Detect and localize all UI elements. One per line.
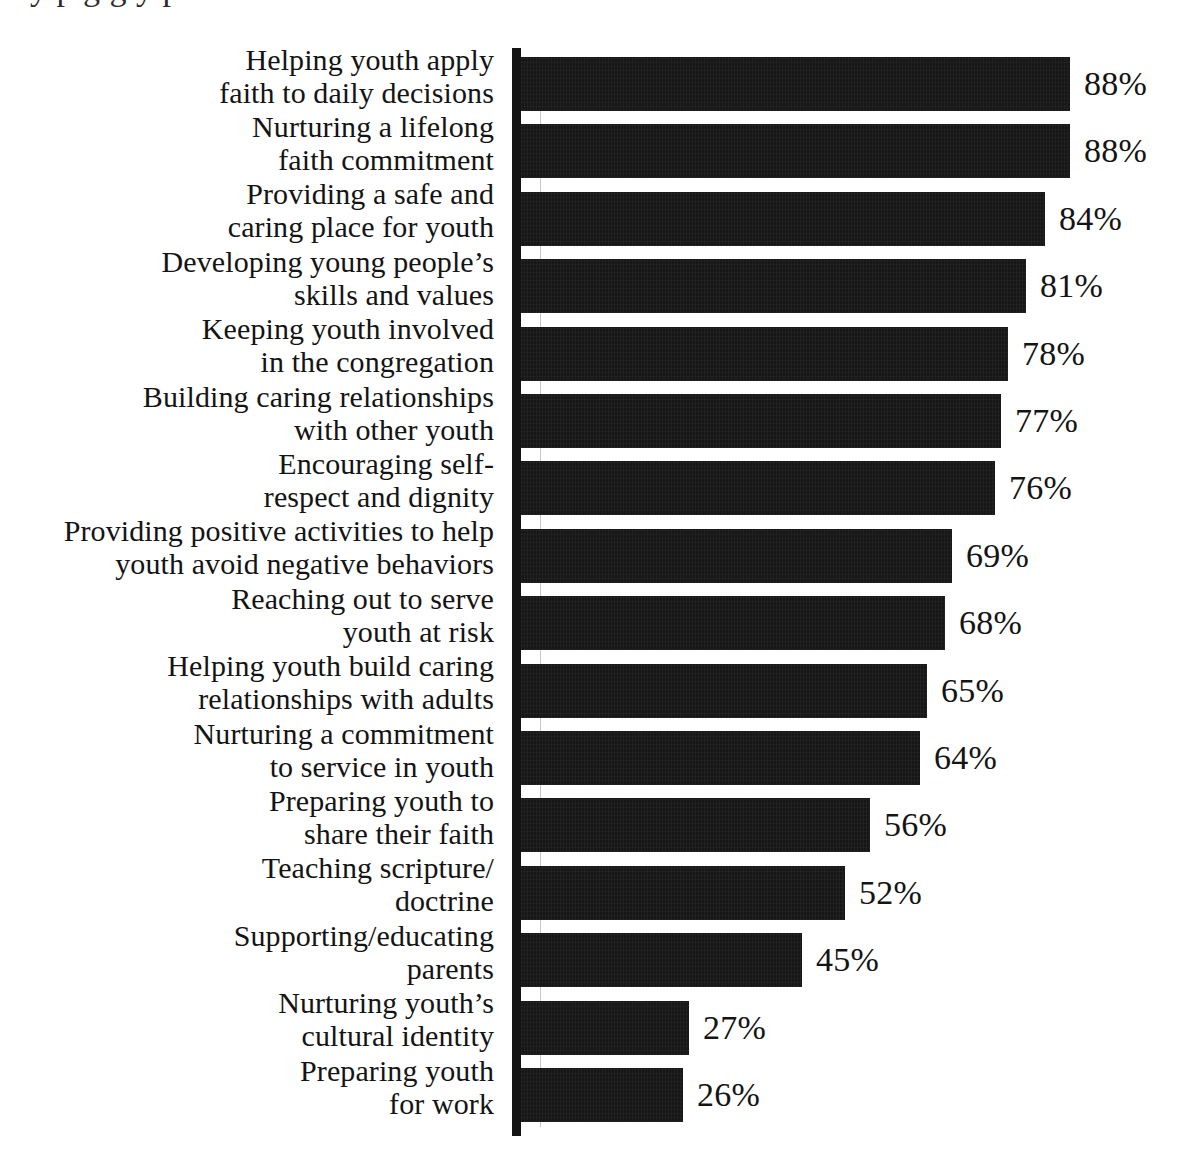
- bar-value-label: 45%: [816, 943, 879, 977]
- category-label-line: Encouraging self-: [0, 447, 494, 480]
- bar-value-label: 76%: [1009, 471, 1072, 505]
- category-label-line: youth avoid negative behaviors: [0, 547, 494, 580]
- category-label-line: Developing young people’s: [0, 245, 494, 278]
- category-label-line: for work: [0, 1087, 494, 1120]
- bar: [521, 798, 870, 852]
- category-label: Providing positive activities to helpyou…: [0, 514, 506, 580]
- category-label-line: skills and values: [0, 278, 494, 311]
- bar: [521, 1068, 683, 1122]
- bar: [521, 327, 1008, 381]
- bar: [521, 394, 1001, 448]
- category-label-line: in the congregation: [0, 345, 494, 378]
- category-label: Preparing youth toshare their faith: [0, 784, 506, 850]
- category-label-line: Nurturing a lifelong: [0, 110, 494, 143]
- bar-value-label: 84%: [1059, 202, 1122, 236]
- category-label-line: Preparing youth: [0, 1054, 494, 1087]
- bar: [521, 866, 845, 920]
- y-axis-line: [512, 48, 521, 1136]
- category-label-line: Providing positive activities to help: [0, 514, 494, 547]
- category-label-line: faith commitment: [0, 143, 494, 176]
- bar-value-label: 88%: [1084, 134, 1147, 168]
- bar-value-label: 81%: [1040, 269, 1103, 303]
- bar-value-label: 77%: [1015, 404, 1078, 438]
- category-label: Encouraging self-respect and dignity: [0, 447, 506, 513]
- bar-value-label: 52%: [859, 876, 922, 910]
- horizontal-bar-chart: Helping youth applyfaith to daily decisi…: [0, 0, 1182, 1165]
- category-label-line: Keeping youth involved: [0, 312, 494, 345]
- bar-value-label: 88%: [1084, 67, 1147, 101]
- category-label: Supporting/educatingparents: [0, 919, 506, 985]
- bar: [521, 596, 945, 650]
- category-label: Nurturing a lifelongfaith commitment: [0, 110, 506, 176]
- bar: [521, 461, 995, 515]
- bar: [521, 192, 1045, 246]
- category-label-line: caring place for youth: [0, 210, 494, 243]
- bar-value-label: 26%: [697, 1078, 760, 1112]
- category-label-line: Nurturing youth’s: [0, 986, 494, 1019]
- category-label-line: faith to daily decisions: [0, 76, 494, 109]
- category-label: Helping youth build caringrelationships …: [0, 649, 506, 715]
- bar: [521, 933, 802, 987]
- category-label-line: to service in youth: [0, 750, 494, 783]
- category-label: Developing young people’sskills and valu…: [0, 245, 506, 311]
- plot-area: 88%88%84%81%78%77%76%69%68%65%64%56%52%4…: [512, 48, 1172, 1138]
- category-label-line: Helping youth build caring: [0, 649, 494, 682]
- category-label-line: share their faith: [0, 817, 494, 850]
- category-label-line: parents: [0, 952, 494, 985]
- category-label: Helping youth applyfaith to daily decisi…: [0, 43, 506, 109]
- bar: [521, 124, 1070, 178]
- bar-value-label: 78%: [1022, 337, 1085, 371]
- category-label: Teaching scripture/doctrine: [0, 851, 506, 917]
- bar-value-label: 65%: [941, 674, 1004, 708]
- bar: [521, 259, 1026, 313]
- category-label-line: youth at risk: [0, 615, 494, 648]
- category-label-line: Building caring relationships: [0, 380, 494, 413]
- bar-value-label: 64%: [934, 741, 997, 775]
- bar: [521, 1001, 689, 1055]
- bar-value-label: 69%: [966, 539, 1029, 573]
- bar: [521, 664, 927, 718]
- category-label-line: Providing a safe and: [0, 177, 494, 210]
- category-label-line: cultural identity: [0, 1019, 494, 1052]
- category-label-line: doctrine: [0, 884, 494, 917]
- category-label: Preparing youthfor work: [0, 1054, 506, 1120]
- bar: [521, 529, 952, 583]
- category-label-line: with other youth: [0, 413, 494, 446]
- category-label-line: respect and dignity: [0, 480, 494, 513]
- category-label: Building caring relationshipswith other …: [0, 380, 506, 446]
- bar: [521, 57, 1070, 111]
- category-label: Reaching out to serveyouth at risk: [0, 582, 506, 648]
- category-label: Keeping youth involvedin the congregatio…: [0, 312, 506, 378]
- category-label-line: Preparing youth to: [0, 784, 494, 817]
- bar-value-label: 27%: [703, 1011, 766, 1045]
- bar-value-label: 56%: [884, 808, 947, 842]
- category-label-line: relationships with adults: [0, 682, 494, 715]
- bar-value-label: 68%: [959, 606, 1022, 640]
- category-label-line: Helping youth apply: [0, 43, 494, 76]
- category-label: Nurturing youth’scultural identity: [0, 986, 506, 1052]
- category-label: Providing a safe andcaring place for you…: [0, 177, 506, 243]
- category-label-line: Nurturing a commitment: [0, 717, 494, 750]
- category-label-line: Supporting/educating: [0, 919, 494, 952]
- bar: [521, 731, 920, 785]
- category-label: Nurturing a commitmentto service in yout…: [0, 717, 506, 783]
- category-label-line: Teaching scripture/: [0, 851, 494, 884]
- category-label-line: Reaching out to serve: [0, 582, 494, 615]
